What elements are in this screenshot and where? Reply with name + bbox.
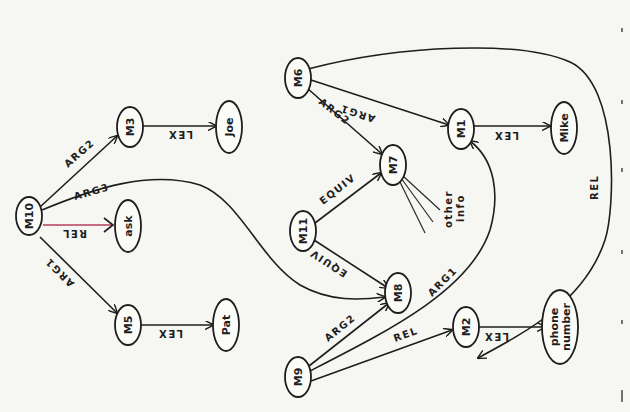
svg-text:ask: ask	[122, 215, 135, 237]
svg-text:M10: M10	[23, 203, 36, 230]
label-m10-m3: ARG2	[62, 137, 97, 170]
label-m10-ask: REL	[62, 228, 87, 239]
label-m6-m2: REL	[589, 175, 600, 200]
other-info-line-1	[403, 176, 440, 210]
svg-text:M6: M6	[292, 68, 305, 87]
edge-m10-m5	[40, 237, 117, 313]
node-m5: M5	[115, 305, 141, 345]
nodes: M10 M3 Joe ask M5 Pat M6 M7	[16, 58, 578, 397]
svg-text:M5: M5	[122, 316, 135, 335]
label-m5-pat: LEX	[158, 328, 183, 339]
svg-text:M8: M8	[392, 284, 405, 303]
node-ask: ask	[115, 200, 141, 252]
label-m2-phone: LEX	[484, 331, 509, 342]
semantic-network-diagram: ARG2 ARG3 REL ARG1 LEX LEX ARG1 ARG2 REL…	[0, 0, 630, 412]
svg-text:Pat: Pat	[220, 315, 233, 335]
svg-text:M1: M1	[455, 120, 468, 139]
label-m1-mike: LEX	[494, 130, 519, 141]
other-info-label-line1: other	[443, 190, 454, 228]
svg-text:M3: M3	[124, 118, 137, 137]
node-m6: M6	[285, 58, 311, 98]
label-m11-m8: EQUIV	[308, 247, 350, 279]
node-m10: M10	[16, 197, 42, 235]
svg-text:M9: M9	[292, 368, 305, 387]
other-info-label-line2: info	[455, 194, 466, 222]
node-m2: M2	[453, 307, 479, 347]
node-m8: M8	[385, 273, 411, 313]
label-m10-m8: ARG3	[73, 181, 111, 202]
svg-text:number: number	[560, 302, 573, 350]
node-pat: Pat	[213, 299, 239, 351]
label-m11-m7: EQUIV	[317, 172, 357, 207]
label-m9-m2: REL	[392, 325, 420, 344]
svg-text:M7: M7	[387, 156, 400, 175]
svg-text:M11: M11	[297, 218, 310, 244]
node-phone-number: phone number	[542, 290, 578, 364]
label-m10-m5: ARG1	[43, 256, 77, 290]
node-m1: M1	[448, 109, 474, 149]
svg-text:Mike: Mike	[558, 113, 571, 142]
node-m7: M7	[380, 145, 406, 185]
node-m11: M11	[290, 211, 316, 251]
node-m3: M3	[117, 107, 143, 147]
label-m9-m8: ARG2	[322, 312, 357, 344]
node-mike: Mike	[551, 102, 577, 154]
label-m3-joe: LEX	[168, 129, 193, 140]
node-joe: Joe	[216, 101, 242, 153]
svg-text:M2: M2	[460, 318, 473, 337]
svg-text:Joe: Joe	[223, 117, 236, 137]
node-m9: M9	[285, 357, 311, 397]
